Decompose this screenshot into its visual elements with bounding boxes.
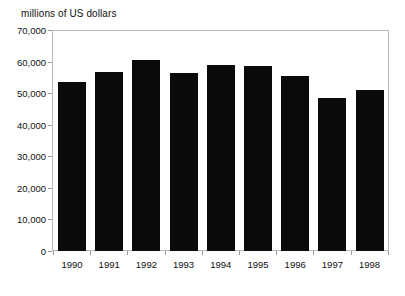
y-axis-unit-label: millions of US dollars: [21, 8, 117, 19]
x-tick-mark: [313, 251, 314, 255]
y-tick-label: 50,000: [0, 88, 46, 99]
bar-1997: [318, 98, 346, 251]
x-tick-label-1997: 1997: [312, 259, 352, 270]
y-tick-label: 30,000: [0, 151, 46, 162]
x-tick-mark: [388, 251, 389, 255]
x-tick-label-1996: 1996: [275, 259, 315, 270]
y-tick-label: 10,000: [0, 214, 46, 225]
y-tick-label: 20,000: [0, 182, 46, 193]
x-tick-label-1993: 1993: [164, 259, 204, 270]
bar-1993: [170, 73, 198, 251]
x-tick-mark: [239, 251, 240, 255]
bar-1992: [132, 60, 160, 251]
y-tick-label: 70,000: [0, 25, 46, 36]
x-tick-mark: [276, 251, 277, 255]
y-tick-label: 0: [0, 246, 46, 257]
x-tick-label-1998: 1998: [350, 259, 390, 270]
x-tick-mark: [53, 251, 54, 255]
bar-chart-figure: millions of US dollars 010,00020,00030,0…: [0, 0, 405, 296]
bar-1996: [281, 76, 309, 251]
x-tick-label-1992: 1992: [126, 259, 166, 270]
x-tick-mark: [127, 251, 128, 255]
y-tick-label: 60,000: [0, 56, 46, 67]
x-tick-label-1994: 1994: [201, 259, 241, 270]
bar-1991: [95, 72, 123, 251]
bar-1990: [58, 82, 86, 251]
bar-1998: [356, 90, 384, 251]
x-tick-label-1990: 1990: [52, 259, 92, 270]
bar-1994: [207, 65, 235, 251]
x-tick-label-1991: 1991: [89, 259, 129, 270]
bar-1995: [244, 66, 272, 251]
plot-area: [52, 30, 389, 251]
y-tick-label: 40,000: [0, 119, 46, 130]
y-tick-mark: [48, 251, 52, 252]
x-tick-mark: [351, 251, 352, 255]
x-tick-label-1995: 1995: [238, 259, 278, 270]
x-tick-mark: [202, 251, 203, 255]
x-tick-mark: [165, 251, 166, 255]
x-tick-mark: [90, 251, 91, 255]
